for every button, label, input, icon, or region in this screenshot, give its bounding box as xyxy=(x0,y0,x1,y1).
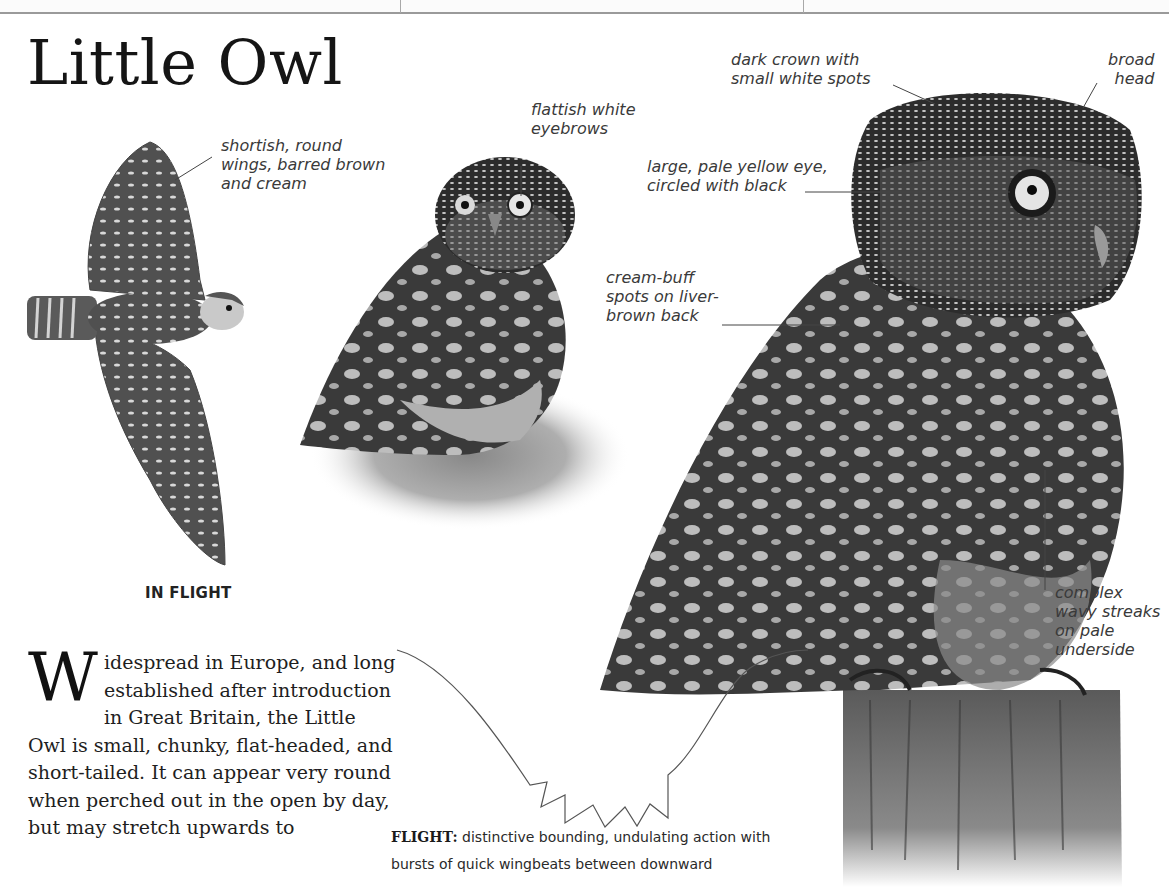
annotation-wings: shortish, round wings, barred brown and … xyxy=(221,136,385,193)
drop-cap: W xyxy=(28,651,98,705)
flying-owl-illustration xyxy=(27,142,244,565)
page-title: Little Owl xyxy=(27,28,343,98)
annotation-eyebrows: flattish white eyebrows xyxy=(531,100,635,138)
annotation-crown: dark crown with small white spots xyxy=(731,50,870,88)
body-paragraph: Widespread in Europe, and long establish… xyxy=(28,649,398,842)
annotation-head: broad head xyxy=(1108,50,1154,88)
flight-note-label: FLIGHT: xyxy=(391,829,458,845)
in-flight-caption: IN FLIGHT xyxy=(145,584,232,602)
flight-note: FLIGHT: distinctive bounding, undulating… xyxy=(391,824,811,878)
annotation-eye: large, pale yellow eye, circled with bla… xyxy=(647,157,828,195)
standing-owl-photo xyxy=(300,157,630,530)
annotation-underside: complex wavy streaks on pale underside xyxy=(1055,583,1160,659)
perched-owl-photo xyxy=(600,93,1142,887)
annotation-back: cream-buff spots on liver- brown back xyxy=(606,268,719,325)
